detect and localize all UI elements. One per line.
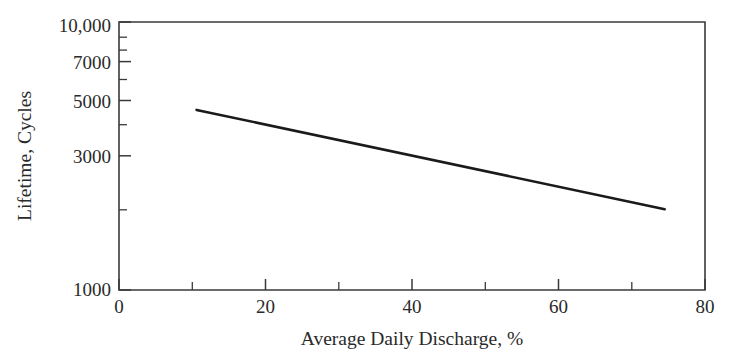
x-tick-label-60: 60 bbox=[549, 296, 568, 317]
y-tick-label-3000: 3000 bbox=[73, 146, 111, 167]
y-tick-label-1000: 1000 bbox=[73, 279, 111, 300]
x-tick-label-40: 40 bbox=[403, 296, 422, 317]
lifetime-vs-discharge-line-chart: 10,000 7000 5000 3000 1000 0 20 40 60 80… bbox=[0, 0, 746, 357]
y-axis-title: Lifetime, Cycles bbox=[14, 91, 35, 221]
x-tick-label-20: 20 bbox=[256, 296, 275, 317]
chart-figure: 10,000 7000 5000 3000 1000 0 20 40 60 80… bbox=[0, 0, 746, 357]
x-axis-title: Average Daily Discharge, % bbox=[301, 328, 523, 349]
x-axis-major-ticks bbox=[119, 279, 705, 290]
series-line-lifetime bbox=[197, 110, 665, 209]
y-tick-label-7000: 7000 bbox=[73, 52, 111, 73]
y-axis-major-ticks bbox=[119, 22, 131, 290]
x-tick-label-0: 0 bbox=[114, 296, 124, 317]
y-axis-minor-ticks bbox=[119, 37, 127, 210]
y-tick-label-5000: 5000 bbox=[73, 91, 111, 112]
x-tick-label-80: 80 bbox=[696, 296, 715, 317]
y-tick-label-10000: 10,000 bbox=[59, 15, 111, 36]
